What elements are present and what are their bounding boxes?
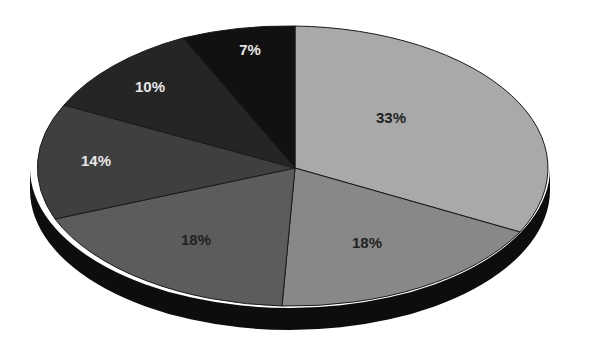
slice-label-14: 14% bbox=[81, 152, 111, 169]
slice-label-7: 7% bbox=[239, 41, 261, 58]
slice-label-10: 10% bbox=[135, 78, 165, 95]
slice-label-18-right: 18% bbox=[352, 234, 382, 251]
slice-label-33: 33% bbox=[376, 109, 406, 126]
pie-chart-svg: 33% 18% 18% 14% 10% 7% bbox=[0, 0, 590, 363]
pie-chart: 33% 18% 18% 14% 10% 7% bbox=[0, 0, 590, 363]
slice-label-18-left: 18% bbox=[181, 231, 211, 248]
